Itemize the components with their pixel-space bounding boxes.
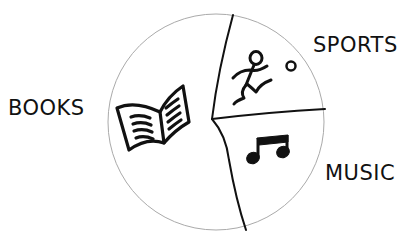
pie-chart: BOOKS SPORTS MUSIC — [0, 0, 405, 244]
label-sports: SPORTS — [313, 33, 398, 57]
label-books: BOOKS — [8, 96, 85, 120]
label-music: MUSIC — [325, 161, 395, 185]
